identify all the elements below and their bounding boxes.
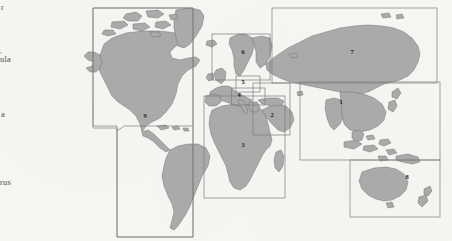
world-map-figure: 1 2 3 4 5 6 7 8 9 [0, 0, 452, 241]
landmasses [84, 8, 432, 230]
landmass-central-america [142, 130, 170, 152]
region-box-5[interactable] [236, 76, 260, 92]
region-label-8: 8 [405, 173, 409, 180]
landmass-iceland [206, 40, 217, 47]
landmass-british-isles [206, 68, 226, 84]
region-label-2: 2 [270, 111, 273, 118]
landmass-new-zealand [418, 186, 432, 207]
landmass-japan [388, 88, 401, 112]
landmass-southeast-asia [344, 130, 397, 161]
landmass-east-asia [340, 92, 386, 132]
figure-page: r , ula a rus [0, 0, 452, 241]
landmass-madagascar [274, 150, 284, 172]
landmass-south-america [162, 144, 210, 230]
landmass-northern-eurasia [266, 25, 420, 94]
region-label-5: 5 [241, 78, 245, 85]
region-label-1: 1 [339, 98, 342, 105]
landmass-new-guinea [396, 154, 420, 164]
landmass-australia [359, 167, 408, 201]
landmass-tasmania [386, 202, 394, 208]
landmass-greenland [174, 8, 204, 48]
